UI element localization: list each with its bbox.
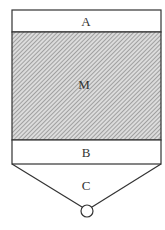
label-a: A bbox=[81, 14, 91, 29]
label-m: M bbox=[78, 77, 90, 92]
outlet-circle bbox=[81, 205, 93, 217]
label-c: C bbox=[82, 178, 91, 193]
vessel-diagram: A M B C bbox=[0, 0, 165, 230]
label-b: B bbox=[82, 145, 91, 160]
